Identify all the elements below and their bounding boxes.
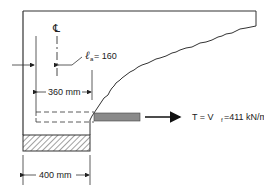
dim-360-label: 360 mm <box>48 87 81 97</box>
centerline: ℄ <box>52 22 60 78</box>
bracket-diagram: ℄ ℓ a = 160 360 mm T = V f =411 kN/m <box>0 0 264 195</box>
la-annotation: ℓ a = 160 <box>58 49 117 65</box>
la-value: = 160 <box>94 51 117 61</box>
dimension-400: 400 mm <box>23 155 90 185</box>
tension-subscript: f <box>221 117 223 123</box>
reinforcement-dashed <box>36 112 94 122</box>
dim-400-label: 400 mm <box>39 170 72 180</box>
tension-label: T = V f =411 kN/m <box>192 112 264 123</box>
bearing-plate <box>23 135 90 151</box>
dimension-360: 360 mm <box>36 36 92 112</box>
tension-prefix: T = V <box>192 112 214 122</box>
tension-value: =411 kN/m <box>224 112 264 122</box>
tension-bar <box>94 113 140 121</box>
centerline-symbol: ℄ <box>52 22 60 34</box>
